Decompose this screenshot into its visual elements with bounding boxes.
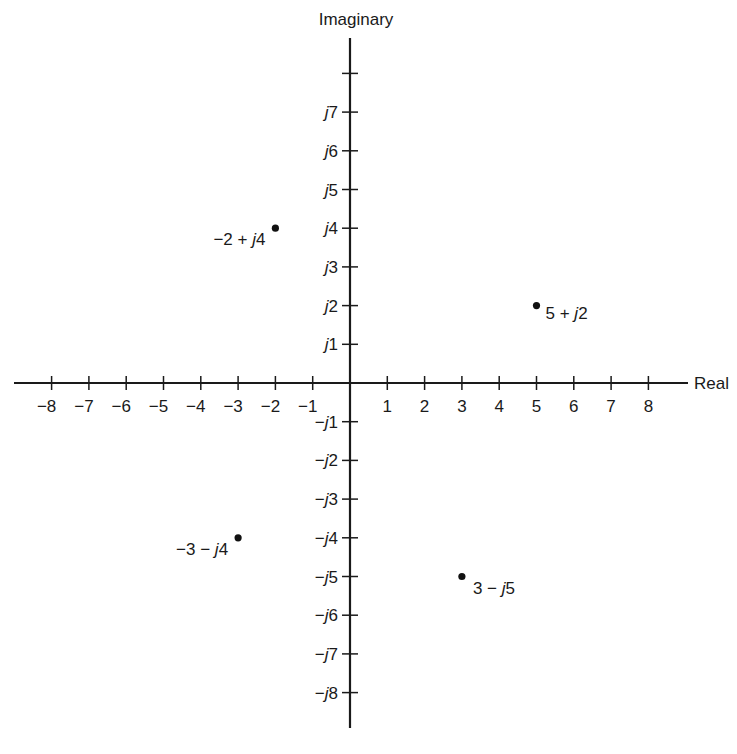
data-point (458, 573, 465, 580)
y-tick-label: j5 (323, 181, 338, 200)
data-point (235, 534, 242, 541)
y-tick-label: −j7 (315, 645, 338, 664)
y-tick-label: −j2 (315, 451, 338, 470)
x-tick-label: 2 (420, 397, 429, 416)
x-tick-label: −4 (186, 397, 205, 416)
y-tick-label: j7 (323, 103, 338, 122)
data-point (533, 302, 540, 309)
y-tick-label: −j6 (315, 606, 338, 625)
data-point-label: −3 − j4 (176, 540, 228, 559)
data-point-label: 3 − j5 (473, 579, 515, 598)
x-tick-label: 5 (532, 397, 541, 416)
complex-plane-chart: −8−7−6−5−4−3−2−112345678 j7j6j5j4j3j2j1−… (0, 0, 737, 754)
x-tick-label: 1 (383, 397, 392, 416)
y-tick-label: j3 (323, 258, 338, 277)
x-tick-label: −5 (149, 397, 168, 416)
y-tick-label: j6 (323, 142, 338, 161)
y-tick-label: −j8 (315, 684, 338, 703)
y-ticks: j7j6j5j4j3j2j1−j1−j2−j3−j4−j5−j6−j7−j8 (315, 73, 358, 702)
data-point (272, 225, 279, 232)
x-tick-label: 6 (569, 397, 578, 416)
x-tick-label: 8 (644, 397, 653, 416)
x-tick-label: −7 (74, 397, 93, 416)
y-tick-label: −j1 (315, 413, 338, 432)
data-point-label: −2 + j4 (213, 230, 265, 249)
x-tick-label: 7 (606, 397, 615, 416)
y-tick-label: j1 (323, 335, 338, 354)
data-point-label: 5 + j2 (546, 304, 588, 323)
axes (14, 38, 688, 728)
x-tick-label: −3 (223, 397, 242, 416)
y-tick-label: j2 (323, 297, 338, 316)
x-tick-label: 3 (457, 397, 466, 416)
x-tick-label: −8 (37, 397, 56, 416)
y-axis-label: Imaginary (319, 10, 394, 29)
y-tick-label: −j3 (315, 490, 338, 509)
y-tick-label: −j4 (315, 529, 338, 548)
y-tick-label: −j5 (315, 568, 338, 587)
x-tick-label: −6 (112, 397, 131, 416)
x-axis-label: Real (694, 374, 729, 393)
y-tick-label: j4 (323, 219, 338, 238)
x-tick-label: 4 (494, 397, 503, 416)
x-tick-label: −2 (261, 397, 280, 416)
